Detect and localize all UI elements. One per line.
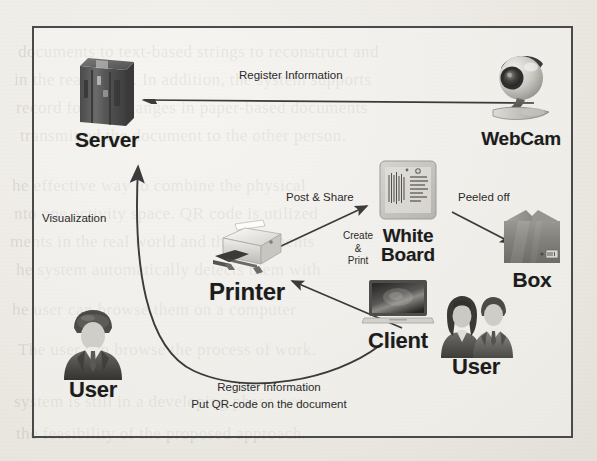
edge-label-create-and-print: Create & Print	[330, 230, 386, 268]
edge-label-register-curve-line1: Register Information	[144, 380, 394, 394]
node-box[interactable]: Box	[486, 206, 578, 290]
whiteboard-document-icon	[376, 158, 440, 224]
node-label-server: Server	[52, 129, 162, 150]
node-label-user-right: User	[426, 356, 526, 378]
node-user-left[interactable]: User	[46, 308, 140, 401]
node-label-webcam: WebCam	[466, 129, 576, 148]
node-label-box: Box	[486, 269, 578, 290]
laptop-icon	[361, 276, 435, 330]
node-user-right[interactable]: User	[426, 290, 526, 378]
server-rack-icon	[70, 50, 144, 128]
node-label-user-left: User	[46, 379, 140, 401]
printer-icon	[205, 218, 289, 280]
edge-label-create-line1: Create	[330, 230, 386, 243]
businessman-icon	[60, 308, 126, 380]
figure-frame: Server	[32, 26, 573, 438]
edge-label-peeled-off: Peeled off	[458, 190, 510, 204]
edge-label-register-curve: Register Information Put QR-code on the …	[144, 380, 394, 412]
node-label-printer: Printer	[186, 280, 308, 304]
edge-label-visualization: Visualization	[42, 211, 106, 225]
edge-label-register-curve-line2: Put QR-code on the document	[144, 397, 394, 411]
edge-label-create-line2: &	[330, 243, 386, 256]
node-webcam[interactable]: WebCam	[466, 48, 576, 148]
cardboard-box-icon	[496, 206, 568, 268]
edge-label-register-information-top: Register Information	[239, 68, 343, 82]
edge-label-post-and-share: Post & Share	[286, 190, 354, 204]
webcam-icon	[475, 48, 567, 128]
node-server[interactable]: Server	[52, 50, 162, 150]
node-printer[interactable]: Printer	[186, 218, 308, 304]
edge-label-create-line3: Print	[330, 255, 386, 268]
two-people-icon	[435, 290, 517, 358]
